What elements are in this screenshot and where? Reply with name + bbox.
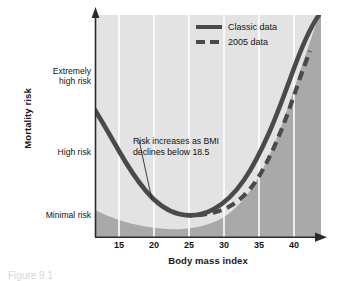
annotation-line2: declines below 18.5 (133, 147, 209, 157)
x-axis-tick-40: 40 (281, 240, 307, 250)
legend-label-2005-data: 2005 data (228, 37, 268, 47)
x-axis-title: Body mass index (95, 255, 321, 266)
legend-label-classic-data: Classic data (228, 22, 277, 32)
x-axis-tick-30: 30 (211, 240, 237, 250)
figure-caption: Figure 9.1 (8, 270, 53, 281)
y-axis-arrow-icon (92, 7, 100, 18)
x-axis-tick-15: 15 (106, 240, 132, 250)
legend-swatch-solid-icon (196, 25, 222, 29)
legend-item-2005-data: 2005 data (196, 34, 328, 49)
legend: Classic data 2005 data (196, 19, 328, 49)
x-axis-tick-35: 35 (246, 240, 272, 250)
annotation-risk-below-18-5: Risk increases as BMI declines below 18.… (133, 136, 251, 157)
x-axis-tick-25: 25 (176, 240, 202, 250)
legend-item-classic-data: Classic data (196, 19, 328, 34)
x-axis-tick-20: 20 (141, 240, 167, 250)
annotation-line1: Risk increases as BMI (133, 136, 219, 146)
legend-swatch-dashed-icon (196, 40, 222, 44)
x-axis-arrow-icon (315, 233, 327, 242)
